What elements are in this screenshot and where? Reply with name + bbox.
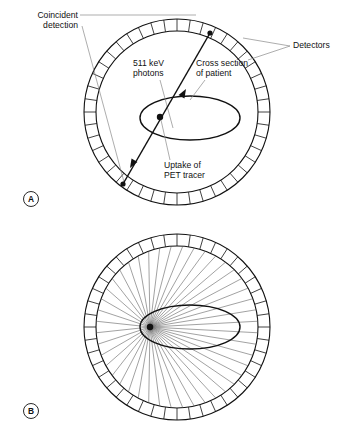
detector-segment-divider	[251, 361, 262, 366]
detector-segment-divider	[85, 124, 97, 126]
detector-segment-divider	[151, 238, 154, 250]
photons-label-line1: 511 keV	[133, 58, 164, 68]
detector-segment-divider	[200, 190, 203, 202]
coincidence-ray	[150, 262, 226, 327]
cross-section-label-line2: of patient	[196, 68, 232, 78]
detector-segment-divider	[88, 350, 100, 353]
coincidence-ray	[150, 256, 216, 327]
detector-segment-divider	[211, 401, 216, 412]
detector-segment-divider	[99, 277, 109, 283]
detector-segment-divider	[221, 180, 227, 190]
detector-segment-divider	[85, 99, 97, 101]
panel-letter-a: A	[28, 194, 34, 204]
panel-letter-a-group: A	[24, 192, 39, 207]
uptake-label-line1: Uptake of	[164, 160, 201, 170]
detector-segment-divider	[245, 371, 255, 377]
detector-segment-divider	[99, 62, 109, 68]
pet-scanner-figure: Coincident detection Detectors 511 keV p…	[0, 0, 353, 433]
detector-segment-divider	[138, 27, 143, 38]
detector-segment-divider	[251, 288, 262, 293]
detector-segment-divider	[221, 395, 227, 405]
detector-segment-divider	[211, 242, 216, 253]
detector-segment-divider	[138, 186, 143, 197]
detector-segment-divider	[164, 235, 166, 247]
detector-segment-divider	[200, 405, 203, 417]
detector-segment-divider	[127, 180, 133, 190]
detector-segment-divider	[211, 186, 216, 197]
ray-convergence-dot	[147, 324, 153, 330]
detector-segment-divider	[107, 165, 116, 173]
panel-letter-b-group: B	[24, 404, 39, 419]
detector-segment-divider	[255, 135, 267, 138]
detectors-leader-upper	[243, 38, 290, 46]
detector-segment-divider	[238, 165, 247, 173]
detector-segment-divider	[127, 395, 133, 405]
detector-segment-divider	[88, 86, 100, 89]
detector-segment-divider	[107, 380, 116, 388]
detector-segment-divider	[255, 86, 267, 89]
detector-segment-divider	[257, 314, 269, 316]
detector-segment-divider	[85, 339, 97, 341]
panel-b	[84, 234, 270, 420]
detector-segment-divider	[107, 51, 116, 59]
detector-segment-divider	[255, 301, 267, 304]
detector-segment-divider	[189, 407, 191, 419]
detector-segment-divider	[127, 249, 133, 259]
coincident-detection-leader-down	[82, 26, 124, 182]
detector-segment-divider	[200, 238, 203, 250]
detector-segment-divider	[189, 192, 191, 204]
coincidence-ray	[112, 278, 150, 327]
detectors-label: Detectors	[293, 40, 330, 50]
detector-segment-divider	[245, 156, 255, 162]
detector-segment-divider	[99, 371, 109, 377]
detector-segment-divider	[245, 277, 255, 283]
detector-segment-divider	[85, 314, 97, 316]
coincidence-ray	[149, 327, 150, 403]
detector-segment-divider	[116, 257, 124, 266]
detector-segment-divider	[257, 339, 269, 341]
detector-segment-divider	[116, 388, 124, 397]
detector-segment-divider	[92, 288, 103, 293]
uptake-label-line2: PET tracer	[164, 170, 205, 180]
panel-letter-b: B	[28, 406, 34, 416]
detector-hit-dot-upper	[207, 30, 212, 35]
detectors-leader-lower	[248, 46, 290, 60]
detector-segment-divider	[238, 380, 247, 388]
detector-segment-divider	[238, 266, 247, 274]
figure-canvas: Coincident detection Detectors 511 keV p…	[0, 0, 353, 433]
detector-segment-divider	[107, 266, 116, 274]
detector-segment-divider	[230, 388, 238, 397]
detector-segment-divider	[257, 99, 269, 101]
tracer-uptake-dot	[157, 114, 163, 120]
photons-label-line2: photons	[133, 68, 164, 78]
detector-segment-divider	[116, 42, 124, 51]
detector-segment-divider	[88, 135, 100, 138]
detector-segment-divider	[230, 173, 238, 182]
coincidence-ray	[150, 327, 205, 403]
detector-segment-divider	[164, 407, 166, 419]
coincident-detection-label-line2: detection	[43, 20, 78, 30]
detector-segment-divider	[221, 249, 227, 259]
detector-segment-divider	[255, 350, 267, 353]
detector-segment-divider	[92, 361, 103, 366]
detector-segment-divider	[99, 156, 109, 162]
photons-leader	[160, 80, 173, 128]
detector-segment-divider	[138, 242, 143, 253]
detector-segment-divider	[221, 34, 227, 44]
detector-segment-divider	[200, 23, 203, 35]
detector-segment-divider	[164, 192, 166, 204]
detector-segment-divider	[127, 34, 133, 44]
detector-segment-divider	[189, 235, 191, 247]
detector-segment-divider	[92, 146, 103, 151]
detector-segment-divider	[251, 146, 262, 151]
coincidence-ray	[149, 251, 150, 327]
coincidence-ray	[150, 251, 205, 327]
detector-segment-divider	[151, 190, 154, 202]
detector-segment-divider	[88, 301, 100, 304]
coincident-detection-label-line1: Coincident	[37, 10, 78, 20]
panel-b-detector-ring-outer-circle	[84, 234, 270, 420]
detector-segment-divider	[92, 73, 103, 78]
detector-segment-divider	[164, 20, 166, 32]
detector-segment-divider	[257, 124, 269, 126]
detector-segment-divider	[138, 401, 143, 412]
